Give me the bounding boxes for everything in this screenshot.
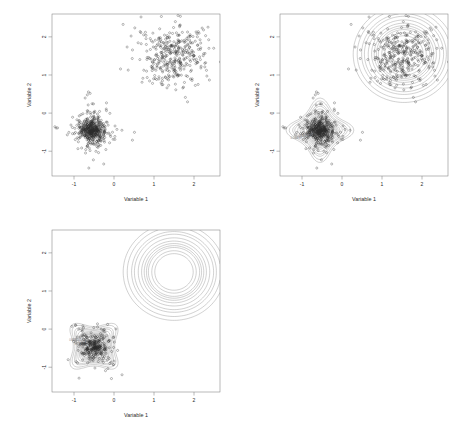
y-tick-label: 0 xyxy=(269,111,275,114)
y-tick-label: 2 xyxy=(269,35,275,38)
y-tick-label: 2 xyxy=(41,35,47,38)
panel-contour-star: 0.0050.010.020.030.050.0750.10.1250.150.… xyxy=(250,6,456,206)
y-tick-label: 0 xyxy=(41,111,47,114)
y-axis-title: Variable 2 xyxy=(26,83,32,107)
y-tick-label: 1 xyxy=(41,289,47,292)
y-axis-title: Variable 2 xyxy=(254,83,260,107)
x-axis-title: Variable 1 xyxy=(352,196,376,202)
plot-area xyxy=(54,14,222,169)
panel-contour-diagonal: 0.0050.010.020.030.050.0750.10.1250.150.… xyxy=(22,222,228,422)
x-tick-label: 1 xyxy=(381,181,384,187)
x-tick-label: 2 xyxy=(421,181,424,187)
scatter-points xyxy=(67,323,123,380)
contour-group: 0.0050.010.020.030.050.0750.10.1250.150.… xyxy=(286,14,448,162)
y-tick-label: 0 xyxy=(41,327,47,330)
figure-canvas: -1012-1012Variable 1Variable 2 0.0050.01… xyxy=(0,0,458,442)
axes: -1012-1012 xyxy=(269,35,424,187)
x-axis-title: Variable 1 xyxy=(124,196,148,202)
x-tick-label: 0 xyxy=(113,397,116,403)
x-axis-title: Variable 1 xyxy=(124,412,148,418)
plot-area: 0.0050.010.020.030.050.0750.10.1250.150.… xyxy=(282,14,450,169)
panel-contour-diagonal: 0.0050.010.020.030.050.0750.10.1250.150.… xyxy=(22,222,228,422)
x-tick-label: 1 xyxy=(153,397,156,403)
y-tick-label: -1 xyxy=(41,365,47,370)
x-tick-label: -1 xyxy=(72,397,77,403)
panel-contour-star: 0.0050.010.020.030.050.0750.10.1250.150.… xyxy=(250,6,456,206)
plot-area: 0.0050.010.020.030.050.0750.10.1250.150.… xyxy=(67,230,220,380)
panel-scatter: -1012-1012Variable 1Variable 2 xyxy=(22,6,228,206)
y-tick-label: -1 xyxy=(41,149,47,154)
y-tick-label: 2 xyxy=(41,251,47,254)
x-tick-label: -1 xyxy=(72,181,77,187)
x-tick-label: 0 xyxy=(341,181,344,187)
x-tick-label: 0 xyxy=(113,181,116,187)
y-tick-label: -1 xyxy=(269,149,275,154)
x-tick-label: -1 xyxy=(300,181,305,187)
y-tick-label: 1 xyxy=(41,73,47,76)
plot-frame xyxy=(52,14,220,176)
x-tick-label: 1 xyxy=(153,181,156,187)
scatter-points xyxy=(54,14,222,169)
panel-scatter: -1012-1012Variable 1Variable 2 xyxy=(22,6,228,206)
x-tick-label: 2 xyxy=(193,181,196,187)
x-tick-label: 2 xyxy=(193,397,196,403)
axes: -1012-1012 xyxy=(41,35,196,187)
y-axis-title: Variable 2 xyxy=(26,299,32,323)
axes: -1012-1012 xyxy=(41,251,196,403)
y-tick-label: 1 xyxy=(269,73,275,76)
